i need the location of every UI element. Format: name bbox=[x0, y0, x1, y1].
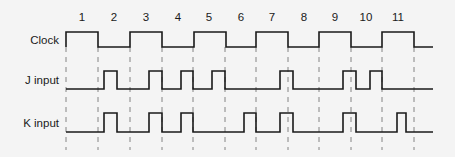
clock-cycle-number: 1 bbox=[79, 11, 85, 23]
k-input-label: K input bbox=[23, 117, 60, 129]
clock-cycle-number: 8 bbox=[301, 11, 307, 23]
clock-cycle-number: 6 bbox=[238, 11, 244, 23]
signal-labels: Clock J input K input bbox=[23, 34, 60, 129]
clock-label: Clock bbox=[30, 34, 59, 46]
clock-cycle-number: 11 bbox=[392, 11, 404, 23]
j-input-waveform bbox=[66, 71, 433, 89]
k-input-waveform bbox=[66, 113, 433, 132]
clock-cycle-numbers: 1234567891011 bbox=[79, 11, 404, 23]
clock-edge-guides bbox=[66, 47, 414, 150]
clock-cycle-number: 9 bbox=[332, 11, 338, 23]
j-input-label: J input bbox=[25, 74, 60, 86]
timing-diagram: 1234567891011 Clock J input K input bbox=[0, 0, 455, 157]
clock-cycle-number: 4 bbox=[175, 11, 182, 23]
clock-cycle-number: 5 bbox=[206, 11, 212, 23]
clock-cycle-number: 2 bbox=[111, 11, 117, 23]
clock-waveform bbox=[66, 32, 433, 47]
clock-cycle-number: 7 bbox=[269, 11, 275, 23]
waveforms bbox=[66, 32, 433, 132]
clock-cycle-number: 3 bbox=[143, 11, 149, 23]
clock-cycle-number: 10 bbox=[360, 11, 373, 23]
